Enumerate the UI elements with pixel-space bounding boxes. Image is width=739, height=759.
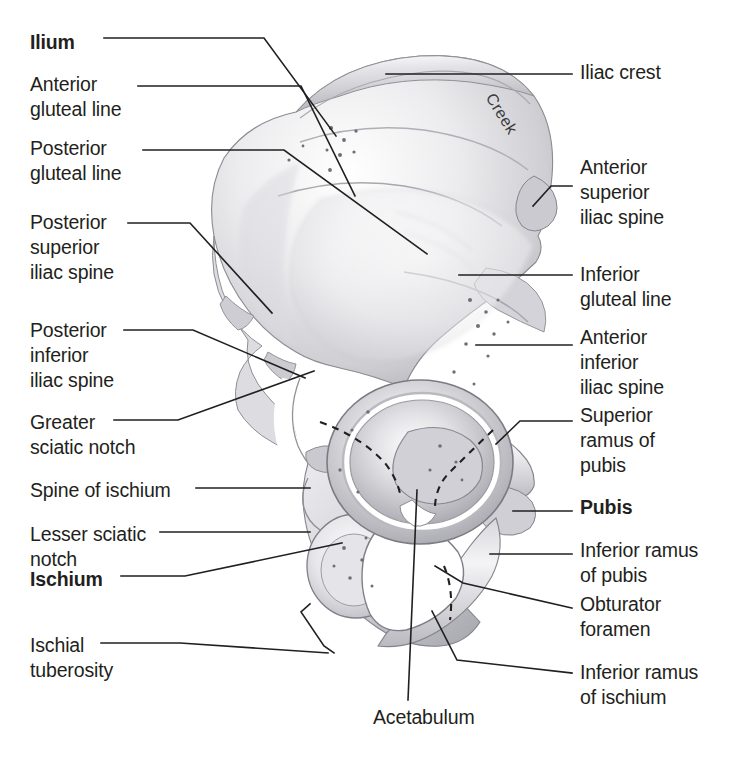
label-posterior-inferior-iliac-spine[interactable]: Posterior inferior iliac spine bbox=[30, 318, 114, 393]
label-anterior-superior-iliac-spine[interactable]: Anterior superior iliac spine bbox=[580, 155, 664, 230]
leader-obturator-foramen bbox=[435, 566, 572, 608]
label-greater-sciatic-notch[interactable]: Greater sciatic notch bbox=[30, 410, 135, 460]
leader-superior-ramus-of-pubis bbox=[496, 421, 572, 444]
leader-ischial-tuberosity bbox=[101, 643, 328, 653]
leader-inferior-ramus-of-ischium bbox=[432, 611, 572, 673]
label-anterior-gluteal-line[interactable]: Anterior gluteal line bbox=[30, 72, 121, 122]
label-iliac-crest[interactable]: Iliac crest bbox=[580, 60, 661, 85]
leader-posterior-superior-iliac-spine bbox=[128, 223, 272, 313]
label-posterior-gluteal-line[interactable]: Posterior gluteal line bbox=[30, 136, 121, 186]
diagram-page: Creek Ilium Anterior gluteal line Poster… bbox=[0, 0, 739, 759]
leader-posterior-inferior-iliac-spine bbox=[124, 330, 305, 378]
label-inferior-ramus-of-ischium[interactable]: Inferior ramus of ischium bbox=[580, 660, 698, 710]
label-anterior-inferior-iliac-spine[interactable]: Anterior inferior iliac spine bbox=[580, 325, 664, 400]
label-lesser-sciatic-notch[interactable]: Lesser sciatic notch bbox=[30, 522, 146, 572]
label-ischial-tuberosity[interactable]: Ischial tuberosity bbox=[30, 633, 113, 683]
label-obturator-foramen[interactable]: Obturator foramen bbox=[580, 592, 661, 642]
leader-greater-sciatic-notch bbox=[114, 371, 314, 420]
label-inferior-ramus-of-pubis[interactable]: Inferior ramus of pubis bbox=[580, 538, 698, 588]
leader-anterior-superior-iliac-spine bbox=[533, 186, 572, 206]
leader-ischial-bracket bbox=[301, 604, 334, 653]
leader-ischium bbox=[121, 543, 342, 576]
leader-anterior-gluteal-line bbox=[138, 86, 355, 196]
label-pubis[interactable]: Pubis bbox=[580, 495, 632, 520]
label-ischium[interactable]: Ischium bbox=[30, 567, 103, 592]
label-ilium[interactable]: Ilium bbox=[30, 30, 75, 55]
label-spine-of-ischium[interactable]: Spine of ischium bbox=[30, 478, 171, 503]
label-posterior-superior-iliac-spine[interactable]: Posterior superior iliac spine bbox=[30, 210, 114, 285]
label-inferior-gluteal-line[interactable]: Inferior gluteal line bbox=[580, 262, 671, 312]
leader-acetabulum bbox=[408, 490, 417, 700]
label-superior-ramus-of-pubis[interactable]: Superior ramus of pubis bbox=[580, 403, 655, 478]
leader-posterior-gluteal-line bbox=[143, 150, 427, 254]
label-acetabulum[interactable]: Acetabulum bbox=[373, 705, 474, 730]
